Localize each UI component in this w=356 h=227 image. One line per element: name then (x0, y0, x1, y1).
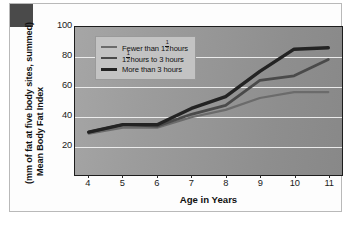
y-tick-label: 20 (50, 140, 72, 150)
legend: Fewer than 112hours112hours to 3 hoursMo… (95, 36, 196, 80)
legend-label: More than 3 hours (122, 65, 182, 74)
x-tick-label: 5 (112, 178, 132, 188)
legend-item: 112hours to 3 hours (101, 53, 188, 63)
y-axis-tick-labels: 20406080100 (48, 4, 72, 227)
x-axis-title: Age in Years (74, 194, 343, 205)
x-tick-label: 4 (78, 178, 98, 188)
y-tick-label: 60 (50, 80, 72, 90)
y-tick-label: 80 (50, 50, 72, 60)
plot-area: Fewer than 112hours112hours to 3 hoursMo… (74, 26, 343, 176)
y-tick-label: 100 (50, 20, 72, 30)
series-line (89, 92, 329, 133)
fraction-glyph: 12 (126, 51, 130, 63)
x-tick-label: 9 (250, 178, 270, 188)
figure-frame: Mean Body Fat Index (mm of fat at five b… (9, 3, 342, 212)
y-axis-title-line1: Mean Body Fat Index (35, 87, 45, 176)
y-axis-title: Mean Body Fat Index (mm of fat at five b… (24, 24, 50, 179)
legend-item: More than 3 hours (101, 64, 188, 74)
x-tick-label: 10 (285, 178, 305, 188)
x-tick-label: 6 (147, 178, 167, 188)
x-tick-label: 8 (216, 178, 236, 188)
legend-swatch (101, 57, 117, 59)
x-axis-tick-labels: 4567891011 (74, 178, 343, 192)
x-tick-label: 7 (181, 178, 201, 188)
legend-label: 112hours to 3 hours (122, 51, 184, 64)
y-axis-title-line2: (mm of fat at five body sites, summed) (24, 22, 34, 184)
x-tick-label: 11 (319, 178, 339, 188)
legend-swatch (101, 68, 117, 71)
legend-swatch (101, 46, 117, 48)
y-tick-label: 40 (50, 110, 72, 120)
